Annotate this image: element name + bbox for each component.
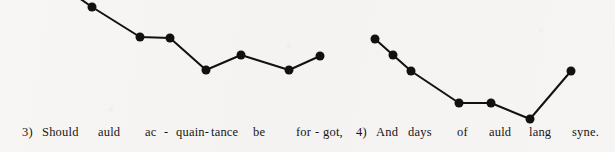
lyric-word: syne. [572,126,599,139]
lyric-word: And [376,126,398,139]
lyric-word: 3) [22,126,33,139]
lyric-word: ac [145,126,157,139]
lyric-word: lang [529,126,551,139]
lyric-word: quain- [176,126,209,139]
lyrics-line: 3)Shouldauldac-quain-tancebefor-got,4)An… [0,0,615,152]
lyric-word: - [315,126,319,139]
lyric-word: be [253,126,265,139]
lyric-word: auld [98,126,120,139]
lyric-word: days [408,126,432,139]
lyric-word: of [457,126,468,139]
lyric-word: tance [211,126,238,139]
lyric-word: 4) [356,126,367,139]
lyric-word: Should [42,126,79,139]
lyric-word: got, [323,126,343,139]
lyric-word: for [296,126,311,139]
melodic-contour-figure: 3)Shouldauldac-quain-tancebefor-got,4)An… [0,0,615,152]
lyric-word: auld [489,126,511,139]
lyric-word: - [164,126,168,139]
